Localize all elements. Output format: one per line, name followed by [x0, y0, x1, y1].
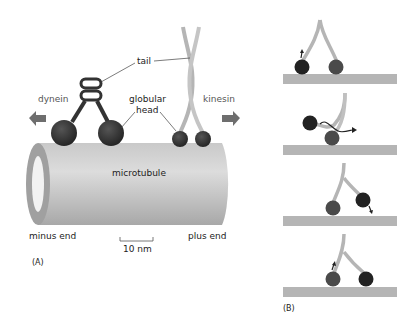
label-scale-bar: 10 nm — [123, 245, 152, 254]
label-kinesin: kinesin — [203, 95, 235, 104]
panel-b-step-3 — [283, 163, 397, 226]
label-minus-end: minus end — [29, 232, 76, 241]
dynein-direction-arrow — [29, 111, 46, 126]
panel-b-step-1 — [283, 20, 397, 84]
label-tail: tail — [137, 57, 151, 66]
panel-b-step-2 — [283, 93, 397, 155]
kinesin-head-left — [172, 131, 188, 147]
label-microtubule: microtubule — [112, 169, 166, 178]
label-globular: globular — [129, 95, 166, 104]
scale-bar — [120, 237, 153, 241]
label-plus-end: plus end — [188, 232, 226, 241]
kinesin-motor — [172, 27, 211, 147]
dynein-head-left — [51, 120, 77, 146]
dynein-head-right — [98, 120, 124, 146]
microtubule — [26, 143, 228, 225]
kinesin-head-right — [195, 131, 211, 147]
diagram-canvas — [0, 0, 415, 323]
panel-a-label: (A) — [32, 259, 44, 267]
dynein-motor — [51, 79, 124, 146]
panel-b-label: (B) — [283, 305, 295, 313]
label-head: head — [136, 106, 158, 115]
kinesin-direction-arrow — [222, 111, 240, 126]
label-dynein: dynein — [38, 95, 69, 104]
panel-b-step-4 — [283, 234, 397, 297]
